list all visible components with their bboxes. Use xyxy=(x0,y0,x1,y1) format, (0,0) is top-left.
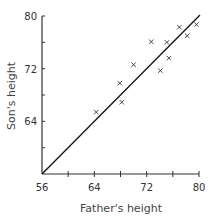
x-tick-label: 72 xyxy=(140,182,153,193)
x-tick-label: 80 xyxy=(193,182,206,193)
x-marker-icon xyxy=(120,100,124,104)
tick-labels: 56647280647280 xyxy=(24,11,205,193)
x-marker-icon xyxy=(149,39,153,43)
x-marker-icon xyxy=(167,56,171,60)
y-axis-label: Son's height xyxy=(5,61,18,130)
y-tick-label: 72 xyxy=(24,64,37,75)
x-axis-label: Father's height xyxy=(80,202,163,215)
y-tick-label: 64 xyxy=(24,116,37,127)
x-marker-icon xyxy=(158,68,162,72)
x-marker-icon xyxy=(185,34,189,38)
x-marker-icon xyxy=(118,81,122,85)
x-marker-icon xyxy=(165,40,169,44)
y-tick-label: 80 xyxy=(24,11,37,22)
reference-line-y-equals-x xyxy=(42,15,200,174)
diagonal-line xyxy=(42,15,200,174)
x-marker-icon xyxy=(131,63,135,67)
x-marker-icon xyxy=(94,110,98,114)
x-marker-icon xyxy=(194,22,198,26)
x-tick-label: 56 xyxy=(36,182,49,193)
x-tick-label: 64 xyxy=(88,182,101,193)
scatter-chart: 56647280647280 Father's height Son's hei… xyxy=(0,0,213,217)
x-marker-icon xyxy=(177,25,181,29)
